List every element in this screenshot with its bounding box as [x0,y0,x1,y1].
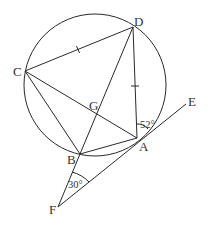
point-label-c: C [13,64,22,79]
tangent-line-fe [58,104,186,207]
point-label-g: G [89,98,98,113]
segment-db [80,27,133,154]
angle-label-f: 30° [68,179,83,190]
geometry-diagram: 52° 30° D C G A B F E [0,0,208,229]
point-label-d: D [134,14,143,29]
segment-cd [25,27,133,71]
point-label-e: E [188,94,196,109]
point-label-a: A [139,139,149,154]
segment-ca [25,71,137,138]
segment-ba [80,138,137,154]
angle-label-a: 52° [140,119,155,130]
segment-da [133,27,137,138]
point-label-f: F [49,202,56,217]
circle [24,14,166,156]
point-label-b: B [67,152,76,167]
